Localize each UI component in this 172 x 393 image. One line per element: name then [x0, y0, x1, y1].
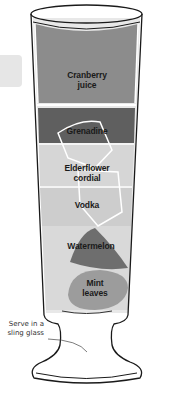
layer-label-line: juice: [58, 80, 116, 90]
layer-label-line: Cranberry: [58, 70, 116, 80]
layer-label-line: Elderflower: [52, 163, 122, 173]
cranberry-layer: [35, 24, 138, 103]
layer-label-line: leaves: [70, 288, 120, 298]
annotation-leader-line: [48, 339, 87, 352]
layer-label-elderflower: Elderflower cordial: [52, 163, 122, 183]
layer-label-grenadine: Grenadine: [52, 126, 122, 136]
serve-note-line: Serve in a: [0, 320, 44, 329]
serve-note: Serve in a sling glass: [0, 320, 44, 338]
layer-label-cranberry: Cranberry juice: [58, 70, 116, 90]
layer-label-vodka: Vodka: [62, 200, 112, 210]
serve-note-line: sling glass: [0, 329, 44, 338]
layer-label-line: cordial: [52, 173, 122, 183]
layer-label-line: Vodka: [62, 200, 112, 210]
layer-label-line: Watermelon: [60, 241, 122, 251]
layer-label-mint: Mint leaves: [70, 278, 120, 298]
layer-label-line: Mint: [70, 278, 120, 288]
layer-label-line: Grenadine: [52, 126, 122, 136]
layer-label-watermelon: Watermelon: [60, 241, 122, 251]
